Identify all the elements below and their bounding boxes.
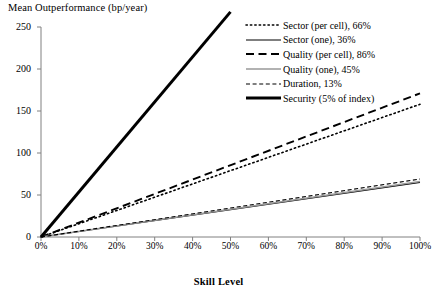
legend-line-swatch [244,63,282,75]
x-tick-label: 20% [97,241,137,251]
y-tick-label: 150 [3,106,31,116]
x-tick-label: 10% [59,241,99,251]
legend-item-label: Duration, 13% [283,78,342,89]
y-tick-label: 200 [3,64,31,74]
legend-item: Sector (per cell), 66% [244,18,434,33]
legend-item: Sector (one), 36% [244,33,434,48]
legend-item: Quality (one), 45% [244,62,434,77]
series-line [41,93,420,237]
series-line [41,12,231,237]
legend-line-swatch [244,92,282,104]
legend-line-swatch [244,78,282,90]
legend-item-label: Quality (per cell), 86% [283,49,375,60]
x-tick-label: 80% [324,241,364,251]
legend-line-swatch [244,34,282,46]
legend-line-swatch [244,19,282,31]
chart-legend: Sector (per cell), 66%Sector (one), 36%Q… [244,18,434,106]
legend-item-label: Sector (per cell), 66% [283,20,371,31]
x-tick-label: 0% [21,241,61,251]
x-tick-label: 40% [173,241,213,251]
x-tick-label: 50% [211,241,251,251]
y-tick-label: 250 [3,22,31,32]
x-tick-label: 100% [400,241,437,251]
x-tick-label: 60% [248,241,288,251]
legend-item-label: Quality (one), 45% [283,64,360,75]
legend-item: Security (5% of index) [244,91,434,106]
y-tick-label: 100 [3,148,31,158]
legend-item: Quality (per cell), 86% [244,47,434,62]
y-tick-label: 50 [3,190,31,200]
x-tick-label: 30% [135,241,175,251]
x-axis-title: Skill Level [0,276,437,287]
chart-container: Mean Outperformance (bp/year) 0501001502… [0,0,437,299]
legend-item-label: Sector (one), 36% [283,34,355,45]
legend-item: Duration, 13% [244,76,434,91]
x-tick-label: 90% [362,241,402,251]
series-line [41,182,420,237]
x-tick-label: 70% [286,241,326,251]
legend-line-swatch [244,48,282,60]
legend-item-label: Security (5% of index) [283,93,374,104]
